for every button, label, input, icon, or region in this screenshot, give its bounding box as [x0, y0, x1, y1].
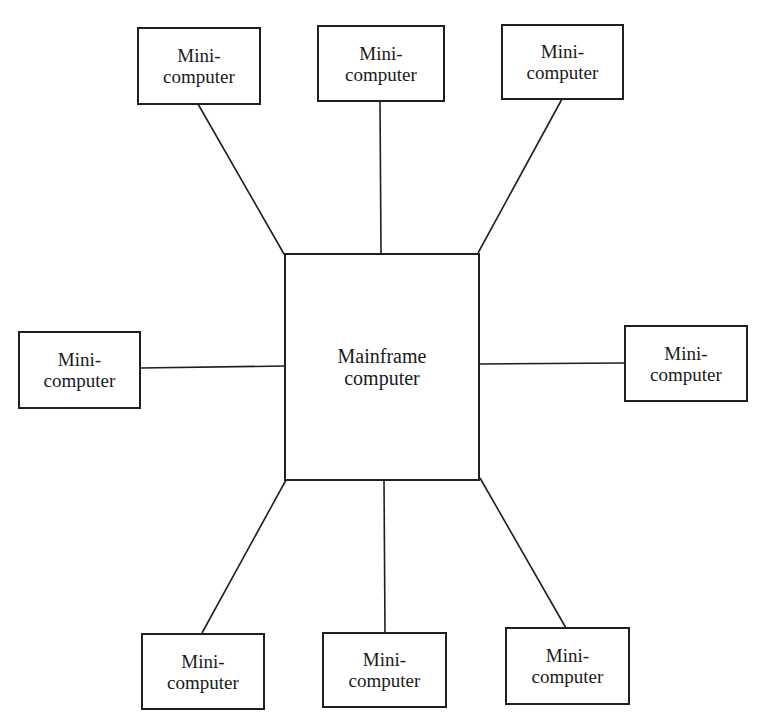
node-label-line2: computer [349, 670, 421, 691]
node-label-line1: Mini- [363, 649, 406, 670]
node-label-line2: computer [532, 666, 604, 687]
minicomputer-node-top-right: Mini- computer [501, 24, 624, 100]
node-label-line2: computer [345, 64, 417, 85]
edge-bottom-right [480, 478, 566, 628]
edge-top-center [380, 101, 381, 253]
node-label-line2: computer [527, 62, 599, 83]
edge-bottom-left [202, 480, 286, 633]
node-label-line1: Mini- [664, 343, 707, 364]
mainframe-computer-node: Mainframe computer [284, 253, 480, 481]
edge-left [140, 366, 285, 368]
node-label-line1: Mini- [177, 45, 220, 66]
node-label-line1: Mainframe [338, 345, 427, 367]
node-label-line2: computer [44, 370, 116, 391]
edge-top-right [478, 99, 562, 253]
minicomputer-node-bottom-right: Mini- computer [505, 627, 630, 705]
minicomputer-node-bottom-left: Mini- computer [141, 633, 265, 710]
node-label-line1: Mini- [181, 651, 224, 672]
minicomputer-node-right: Mini- computer [624, 325, 748, 402]
edge-bottom-center [384, 480, 385, 632]
node-label-line2: computer [163, 66, 235, 87]
node-label-line2: computer [344, 367, 420, 389]
node-label-line1: Mini- [359, 43, 402, 64]
node-label-line1: Mini- [58, 349, 101, 370]
node-label-line2: computer [650, 364, 722, 385]
node-label-line1: Mini- [546, 645, 589, 666]
node-label-line1: Mini- [541, 41, 584, 62]
node-label-line2: computer [167, 672, 239, 693]
edge-top-left [198, 104, 284, 254]
minicomputer-node-top-center: Mini- computer [317, 25, 445, 102]
edge-right [479, 363, 624, 364]
minicomputer-node-left: Mini- computer [18, 331, 141, 409]
minicomputer-node-top-left: Mini- computer [137, 27, 261, 105]
minicomputer-node-bottom-center: Mini- computer [322, 632, 447, 708]
